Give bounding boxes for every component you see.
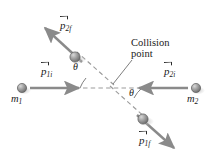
mass-label-m1-subscript: 1 bbox=[19, 97, 23, 106]
vector-label-p2i: p2i bbox=[164, 66, 175, 79]
vector-label-p2f-subscript: 2f bbox=[66, 24, 72, 33]
vector-label-p1i-symbol: p bbox=[41, 66, 47, 78]
angle-arc-upper bbox=[80, 78, 86, 88]
vector-label-p1f-symbol: p bbox=[139, 135, 145, 147]
diagram-canvas bbox=[0, 0, 218, 160]
mass-label-m1: m1 bbox=[11, 93, 22, 106]
mass1-sphere bbox=[17, 83, 26, 92]
vector-label-p2i-subscript: 2i bbox=[170, 70, 176, 79]
mass-label-m2: m2 bbox=[187, 93, 198, 106]
vector-label-p1f: p1f bbox=[139, 135, 150, 148]
vector-label-p2f-symbol: p bbox=[60, 20, 66, 32]
callout-leader-line bbox=[113, 60, 132, 84]
vector-label-p1i: p1i bbox=[41, 66, 52, 79]
collision-point-line2: point bbox=[131, 48, 170, 59]
angle-label-theta-upper-text: θ bbox=[73, 61, 78, 72]
mass-label-m2-symbol: m bbox=[187, 93, 195, 104]
collision-diagram: p2f p1i p2i p1f m1 m2 θ θ Collision poin… bbox=[0, 0, 218, 160]
mass2-sphere bbox=[191, 83, 200, 92]
vector-label-p2i-symbol: p bbox=[164, 66, 170, 78]
vector-label-p1i-subscript: 1i bbox=[47, 70, 53, 79]
collision-point-callout: Collision point bbox=[131, 37, 170, 60]
angle-label-theta-upper: θ bbox=[73, 62, 78, 73]
vector-label-p1f-subscript: 1f bbox=[145, 139, 151, 148]
angle-label-theta-lower-text: θ bbox=[129, 87, 134, 98]
vector-label-p2f: p2f bbox=[60, 20, 71, 33]
mass-label-m2-subscript: 2 bbox=[195, 97, 199, 106]
mass-label-m1-symbol: m bbox=[11, 93, 19, 104]
angle-arc-lower bbox=[134, 88, 142, 98]
angle-label-theta-lower: θ bbox=[129, 88, 134, 99]
collision-point-line1: Collision bbox=[131, 37, 170, 48]
particle-1f-sphere bbox=[138, 114, 148, 124]
